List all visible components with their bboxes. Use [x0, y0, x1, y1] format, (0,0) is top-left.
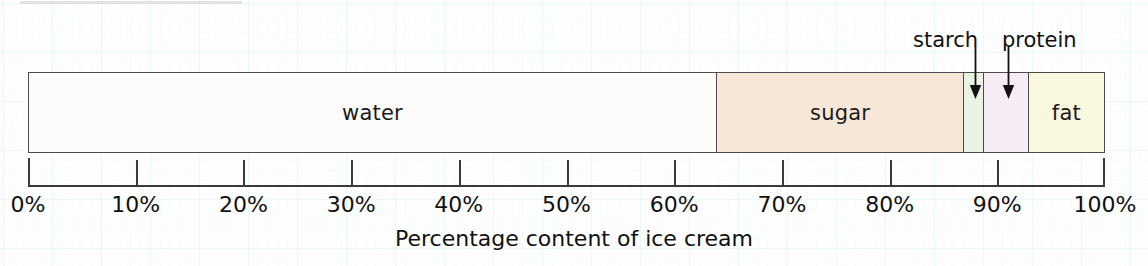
- bar-segment-label-water: water: [342, 101, 403, 125]
- bar-segment-sugar: sugar: [717, 73, 964, 152]
- bar-segment-label-fat: fat: [1052, 101, 1081, 125]
- x-tick-10%: [136, 160, 138, 186]
- scan-artifact-line: [20, 1, 242, 4]
- x-tick-80%: [890, 160, 892, 186]
- x-tick-20%: [243, 160, 245, 186]
- x-tick-90%: [997, 160, 999, 186]
- bar-segment-protein: [984, 73, 1029, 152]
- stacked-bar: watersugarfat: [28, 72, 1105, 153]
- x-tick-70%: [782, 160, 784, 186]
- starch-callout-label: starch: [913, 28, 978, 52]
- x-tick-label-10%: 10%: [111, 192, 160, 217]
- x-tick-label-20%: 20%: [219, 192, 268, 217]
- x-tick-label-30%: 30%: [327, 192, 376, 217]
- x-tick-label-90%: 90%: [973, 192, 1022, 217]
- x-tick-label-80%: 80%: [865, 192, 914, 217]
- x-tick-0%: [28, 158, 30, 186]
- x-tick-label-40%: 40%: [434, 192, 483, 217]
- chart-canvas: watersugarfat starch protein 0%10%20%30%…: [0, 0, 1148, 266]
- x-tick-50%: [567, 160, 569, 186]
- x-tick-label-60%: 60%: [650, 192, 699, 217]
- bar-segment-starch: [964, 73, 983, 152]
- x-tick-40%: [459, 160, 461, 186]
- protein-callout-label: protein: [1002, 28, 1077, 52]
- x-tick-100%: [1103, 158, 1105, 186]
- x-tick-30%: [351, 160, 353, 186]
- bar-segment-water: water: [29, 73, 717, 152]
- bar-segment-label-sugar: sugar: [810, 101, 870, 125]
- x-tick-label-50%: 50%: [542, 192, 591, 217]
- bar-segment-fat: fat: [1029, 73, 1104, 152]
- x-tick-60%: [674, 160, 676, 186]
- x-tick-label-100%: 100%: [1074, 192, 1137, 217]
- x-axis-title: Percentage content of ice cream: [0, 226, 1148, 251]
- x-tick-label-70%: 70%: [757, 192, 806, 217]
- x-tick-label-0%: 0%: [11, 192, 46, 217]
